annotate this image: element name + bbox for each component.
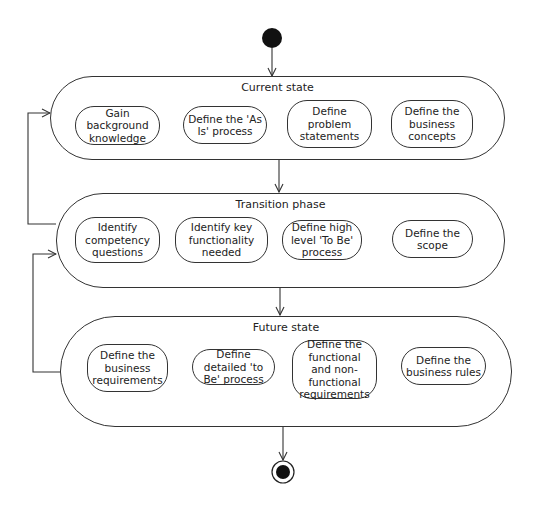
region-title: Transition phase: [57, 198, 504, 211]
action-define-detailed-to-be-process[interactable]: Define detailed 'to Be' process: [192, 349, 275, 385]
action-define-business-concepts[interactable]: Define the business concepts: [391, 100, 473, 148]
action-define-functional-requirements[interactable]: Define the functional and non-functional…: [292, 340, 377, 399]
region-title: Future state: [61, 321, 511, 334]
action-define-problem-statements[interactable]: Define problem statements: [287, 100, 372, 148]
action-define-as-is-process[interactable]: Define the 'As Is' process: [183, 106, 267, 144]
action-define-business-rules[interactable]: Define the business rules: [401, 347, 486, 385]
region-title: Current state: [51, 81, 504, 94]
action-gain-background-knowledge[interactable]: Gain background knowledge: [75, 106, 160, 145]
action-define-scope[interactable]: Define the scope: [392, 220, 473, 258]
action-define-high-level-to-be-process[interactable]: Define high level 'To Be' process: [282, 220, 362, 260]
action-identify-competency-questions[interactable]: Identify competency questions: [75, 217, 160, 263]
initial-node-icon: [261, 27, 283, 49]
action-define-business-requirements[interactable]: Define the business requirements: [87, 344, 168, 392]
activity-diagram: Current state Gain background knowledge …: [0, 0, 535, 508]
final-node-icon: [271, 460, 295, 484]
action-identify-key-functionality[interactable]: Identify key functionality needed: [175, 217, 268, 263]
